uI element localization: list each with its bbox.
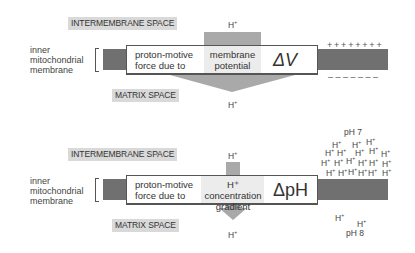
proton-flow-arrow-shaft-bottom bbox=[226, 162, 240, 176]
proton-matrix: H+ bbox=[335, 210, 344, 223]
proton: H+ bbox=[358, 165, 367, 178]
pmf-text-top: proton-motive force due to bbox=[135, 49, 193, 71]
membrane-label-top: inner mitochondrial membrane bbox=[30, 45, 84, 75]
cause-line2: gradient bbox=[199, 201, 267, 212]
proton: H+ bbox=[326, 165, 335, 178]
pmf-line2: force due to bbox=[135, 60, 193, 71]
negative-charges: – – – – – – – bbox=[328, 73, 378, 82]
proton: H+ bbox=[368, 165, 377, 178]
membrane-right-bottom bbox=[318, 179, 388, 200]
proton-flow-arrow-shaft-top bbox=[204, 32, 261, 46]
membrane-right-top bbox=[318, 49, 388, 70]
membrane-left-bottom bbox=[103, 179, 127, 200]
h-plus-top-in: H+ bbox=[228, 17, 237, 30]
membrane-label-line: mitochondrial bbox=[30, 55, 84, 65]
pmf-line1: proton-motive bbox=[135, 49, 193, 60]
ph-8-label: pH 8 bbox=[346, 228, 364, 238]
delta-ph-symbol: ΔpH bbox=[273, 180, 308, 201]
membrane-label-line: inner bbox=[30, 176, 84, 186]
pmf-line1: proton-motive bbox=[135, 179, 193, 190]
h-plus-bottom-out: H+ bbox=[228, 227, 237, 240]
pmf-line2: force due to bbox=[135, 190, 193, 201]
membrane-label-bottom: inner mitochondrial membrane bbox=[30, 176, 84, 206]
proton: H+ bbox=[382, 165, 391, 178]
delta-v-symbol: ΔV bbox=[273, 50, 297, 71]
matrix-space-label-top: MATRIX SPACE bbox=[112, 89, 179, 102]
h-plus-top-out: H+ bbox=[228, 97, 237, 110]
membrane-label-line: mitochondrial bbox=[30, 186, 84, 196]
positive-charges: ++++++++ bbox=[327, 41, 383, 50]
proton: H+ bbox=[348, 164, 357, 177]
membrane-label-line: membrane bbox=[30, 65, 84, 75]
proton-cloud-intermembrane: H+ H+ H+ H+ H+ H+ H+ H+ H+ H+ H+ H+ H+ H… bbox=[320, 136, 415, 180]
pmf-text-bottom: proton-motive force due to bbox=[135, 179, 193, 201]
membrane-left-top bbox=[103, 49, 127, 70]
bracket-top bbox=[95, 48, 99, 72]
bracket-bottom bbox=[95, 178, 99, 202]
cause-text-top: membrane potential bbox=[204, 49, 261, 71]
cause-line2: potential bbox=[204, 60, 261, 71]
matrix-space-label-bottom: MATRIX SPACE bbox=[112, 219, 179, 232]
intermembrane-space-label-bottom: INTERMEMBRANE SPACE bbox=[68, 148, 177, 161]
cause-line1: H⁺ concentration bbox=[199, 179, 267, 201]
membrane-label-line: membrane bbox=[30, 196, 84, 206]
cause-text-bottom: H⁺ concentration gradient bbox=[199, 179, 267, 212]
h-plus-bottom-in: H+ bbox=[228, 148, 237, 161]
intermembrane-space-label-top: INTERMEMBRANE SPACE bbox=[68, 17, 177, 30]
membrane-label-line: inner bbox=[30, 45, 84, 55]
proton: H+ bbox=[338, 165, 347, 178]
cause-line1: membrane bbox=[204, 49, 261, 60]
arrow-down-icon bbox=[170, 75, 295, 93]
